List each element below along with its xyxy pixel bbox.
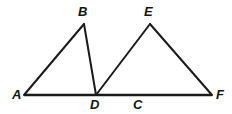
geometry-canvas [0, 0, 232, 114]
segment-BD [84, 24, 96, 95]
vertex-label-e: E [144, 5, 153, 18]
segment-DE [96, 24, 150, 95]
vertex-label-f: F [216, 88, 224, 101]
vertex-label-c: C [133, 98, 142, 111]
vertex-label-d: D [90, 98, 99, 111]
vertex-label-b: B [78, 5, 87, 18]
segment-EF [150, 24, 212, 95]
geometry-figure: A B D C E F [0, 0, 232, 114]
vertex-label-a: A [12, 88, 21, 101]
segment-AB [24, 24, 84, 95]
